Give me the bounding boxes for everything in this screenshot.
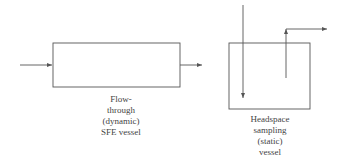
- headspace-vessel-label: Headspace sampling (static) vessel: [235, 114, 305, 158]
- label-line: SFE vessel: [86, 127, 156, 138]
- label-line: sampling: [235, 125, 305, 136]
- label-line: (dynamic): [86, 116, 156, 127]
- label-line: through: [86, 105, 156, 116]
- flow-through-vessel-box: [53, 43, 180, 87]
- flow-through-vessel: [20, 43, 202, 87]
- label-line: Flow-: [86, 94, 156, 105]
- headspace-vessel-box: [229, 43, 310, 109]
- label-line: (static): [235, 136, 305, 147]
- flow-through-vessel-label: Flow- through (dynamic) SFE vessel: [86, 94, 156, 138]
- label-line: vessel: [235, 147, 305, 158]
- headspace-vessel: [229, 5, 327, 109]
- label-line: Headspace: [235, 114, 305, 125]
